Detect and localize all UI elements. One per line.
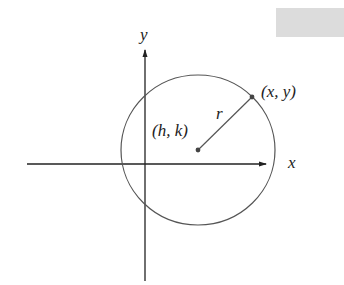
radius-line [198, 97, 252, 150]
gray-corner-box [276, 8, 344, 37]
y-axis-label: y [138, 25, 148, 44]
circle-point [250, 95, 255, 100]
diagram-canvas: y x (h, k) (x, y) r [0, 0, 344, 285]
center-label: (h, k) [152, 121, 188, 140]
circle-diagram: y x (h, k) (x, y) r [0, 0, 344, 285]
point-label: (x, y) [261, 82, 296, 101]
x-axis-label: x [287, 153, 296, 172]
radius-label: r [216, 104, 223, 123]
center-point [196, 148, 201, 153]
